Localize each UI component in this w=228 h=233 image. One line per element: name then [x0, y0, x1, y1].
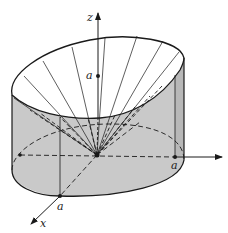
- z-a-label: a: [86, 70, 93, 81]
- z-axis-label: z: [87, 12, 93, 23]
- x-a-label: a: [57, 201, 64, 212]
- x-a-point: [58, 194, 62, 198]
- z-a-point: [96, 74, 100, 78]
- x-axis-label: x: [40, 218, 46, 229]
- y-a-label: a: [171, 160, 178, 171]
- cylinder-cone-diagram: [0, 0, 228, 233]
- origin-apex: [95, 153, 100, 158]
- y-neg-point: [18, 153, 22, 157]
